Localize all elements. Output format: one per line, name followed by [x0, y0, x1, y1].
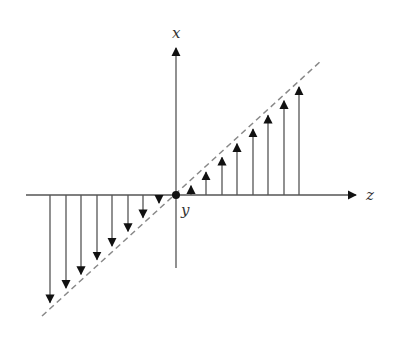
x-axis-label: x — [172, 24, 181, 42]
z-axis-label: z — [365, 186, 374, 204]
origin-dot — [172, 191, 180, 199]
dashed-line — [42, 60, 322, 316]
field-diagram: x z y — [0, 0, 393, 337]
origin-label: y — [180, 201, 190, 219]
